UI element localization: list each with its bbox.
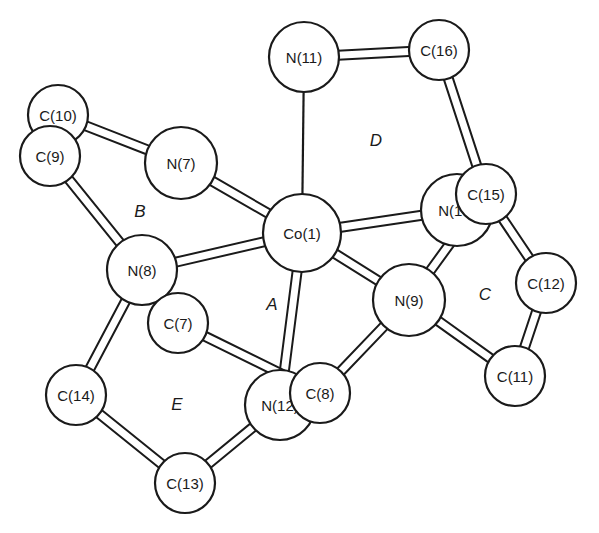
atom-label: C(14)	[57, 387, 95, 404]
atom-label: N(8)	[127, 262, 156, 279]
atom-c13: C(13)	[155, 453, 215, 513]
bond-n8-co1	[165, 235, 277, 269]
bond-co1-n10	[328, 209, 432, 233]
ring-label-a: A	[265, 295, 277, 314]
atom-c11: C(11)	[485, 346, 545, 406]
bond-n8-c14	[82, 290, 135, 379]
atom-label: C(13)	[166, 475, 204, 492]
atom-c7: C(7)	[148, 293, 208, 353]
atom-label: C(11)	[497, 368, 533, 385]
molecular-diagram: C(10)C(9)N(7)N(11)C(16)N(10)C(15)Co(1)N(…	[0, 0, 599, 533]
atom-label: N(11)	[286, 49, 322, 66]
bond-n11-c16	[328, 47, 418, 61]
atom-n11: N(11)	[269, 22, 339, 92]
atom-label: Co(1)	[283, 225, 321, 242]
ring-label-e: E	[171, 395, 183, 414]
atom-label: C(10)	[39, 107, 77, 124]
atom-co1: Co(1)	[263, 194, 341, 272]
ring-label-c: C	[479, 285, 492, 304]
atom-c14: C(14)	[46, 365, 106, 425]
ring-label-b: B	[134, 202, 145, 221]
atom-label: N(9)	[394, 292, 423, 309]
atom-label: C(16)	[420, 42, 458, 59]
atom-label: C(12)	[527, 275, 565, 292]
atom-c16: C(16)	[409, 20, 469, 80]
atom-c9: C(9)	[20, 126, 80, 186]
bond-c16-c15	[441, 69, 484, 176]
bond-c14-c13	[90, 405, 172, 474]
atom-label: C(9)	[35, 148, 64, 165]
atom-c8: C(8)	[290, 363, 350, 423]
atom-label: N(7)	[166, 155, 195, 172]
atom-n7: N(7)	[145, 127, 217, 199]
atom-c15: C(15)	[456, 164, 516, 224]
atoms-layer: C(10)C(9)N(7)N(11)C(16)N(10)C(15)Co(1)N(…	[20, 20, 576, 513]
bond-co1-n12	[279, 260, 303, 382]
atom-n9: N(9)	[373, 264, 445, 336]
bond-n11-co1	[302, 81, 303, 205]
atom-label: C(15)	[467, 186, 505, 203]
ring-label-d: D	[370, 131, 382, 150]
atom-c12: C(12)	[516, 253, 576, 313]
bond-c9-n8	[60, 170, 130, 254]
atom-label: C(8)	[305, 385, 334, 402]
atom-label: C(7)	[163, 315, 192, 332]
